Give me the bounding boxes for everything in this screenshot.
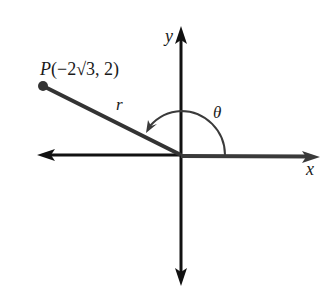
y-axis-label: y (163, 26, 173, 46)
x-axis (37, 149, 320, 163)
point-p-dot (38, 81, 48, 91)
angle-label: θ (213, 103, 221, 122)
point-p-coords: (−2√3, 2) (51, 59, 119, 80)
radius-label: r (116, 95, 123, 114)
point-p-label: P(−2√3, 2) (39, 59, 119, 80)
coordinate-diagram: y x r θ P(−2√3, 2) (0, 0, 334, 306)
point-p-name: P (39, 59, 51, 79)
x-axis-label: x (305, 159, 314, 179)
svg-text:P(−2√3, 2): P(−2√3, 2) (39, 59, 119, 80)
